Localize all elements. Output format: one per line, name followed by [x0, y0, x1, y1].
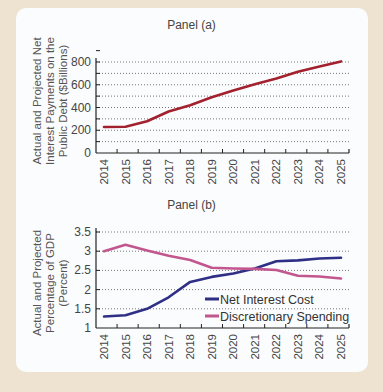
panel-a-xtick-label: 2020 — [227, 159, 239, 185]
panel-a-ytick-label: 400 — [71, 101, 91, 115]
panel-a-xtick-label: 2014 — [98, 158, 110, 184]
panel-b-xtick-label: 2017 — [163, 334, 175, 360]
panel-a-xtick-label: 2021 — [249, 159, 261, 185]
panel-a-series-line — [104, 61, 341, 127]
panel-b-xtick-label: 2015 — [120, 334, 132, 360]
panel-a-ytick-label: 800 — [71, 55, 91, 69]
panel-a-xtick-label: 2019 — [206, 159, 218, 185]
panel-a-xtick-label: 2018 — [184, 159, 196, 185]
panel-b-ytick-label: 3.5 — [74, 225, 91, 239]
panel-b-ytick-label: 2.5 — [74, 263, 91, 277]
panel-b-xtick-label: 2018 — [184, 334, 196, 360]
panel-b-ytick-label: 1.5 — [74, 302, 91, 316]
panel-b-xtick-label: 2020 — [227, 334, 239, 360]
panel-a-xtick-label: 2016 — [141, 159, 153, 185]
panel-b-ytick-label: 2 — [84, 283, 91, 297]
panel-a-xtick-label: 2023 — [292, 159, 304, 185]
panel-a-xtick-label: 2022 — [270, 159, 282, 185]
panel-b-series-line — [104, 258, 341, 317]
panel-a-xtick-label: 2017 — [163, 159, 175, 185]
panel-a-ytick-label: 200 — [71, 123, 91, 137]
legend-label: Net Interest Cost — [220, 293, 314, 307]
charts-svg: 0200400600800201420152016201720182019202… — [0, 0, 383, 392]
panel-b-xtick-label: 2021 — [249, 334, 261, 360]
panel-b-series-line — [104, 245, 341, 279]
panel-b-xtick-label: 2022 — [270, 334, 282, 360]
panel-b-xtick-label: 2016 — [141, 334, 153, 360]
panel-b-xtick-label: 2019 — [206, 334, 218, 360]
panel-a-xtick-label: 2024 — [313, 158, 325, 184]
panel-a-ytick-label: 600 — [71, 78, 91, 92]
panel-a-ytick-label: 0 — [84, 146, 91, 160]
panel-a-xtick-label: 2025 — [335, 159, 347, 185]
panel-b-ytick-label: 1 — [84, 321, 91, 335]
panel-b-xtick-label: 2025 — [335, 334, 347, 360]
panel-b-ytick-label: 3 — [84, 244, 91, 258]
legend-label: Discretionary Spending — [220, 310, 349, 324]
panel-a-xtick-label: 2015 — [120, 159, 132, 185]
panel-b-xtick-label: 2014 — [98, 333, 110, 359]
panel-b-xtick-label: 2024 — [313, 333, 325, 359]
panel-b-xtick-label: 2023 — [292, 334, 304, 360]
